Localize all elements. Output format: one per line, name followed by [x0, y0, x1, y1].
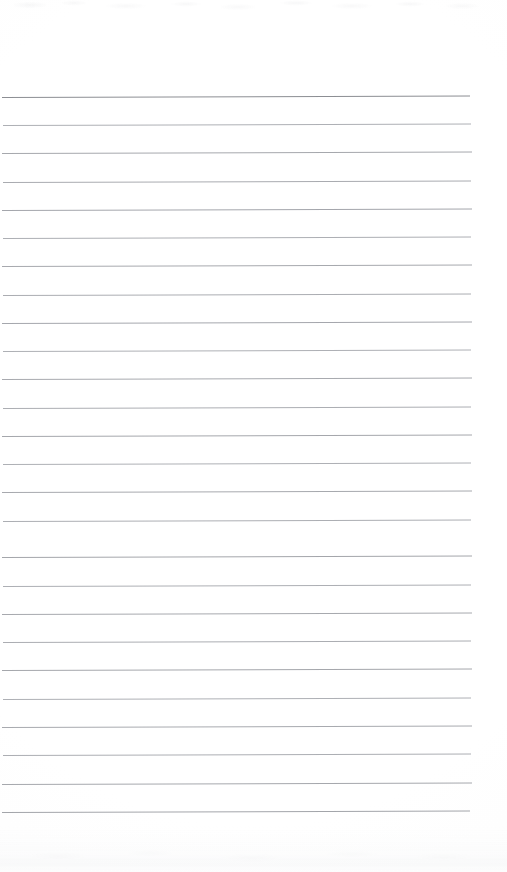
- ruling-line: [3, 520, 471, 522]
- ruling-line: [3, 754, 471, 756]
- ruling-lines-layer: [0, 0, 507, 872]
- scanned-page: [0, 0, 507, 872]
- ruling-line: [2, 613, 472, 615]
- ruling-line: [2, 726, 472, 728]
- ruling-line: [3, 698, 471, 700]
- ruling-line: [2, 209, 472, 211]
- header-rule: [2, 96, 470, 98]
- ruling-line: [2, 265, 472, 267]
- ruling-line: [2, 322, 472, 324]
- ruling-line: [3, 294, 471, 296]
- ruling-line: [2, 556, 472, 558]
- ruling-line: [2, 783, 472, 785]
- ruling-line: [3, 585, 471, 587]
- ruling-line: [2, 491, 472, 493]
- ruling-line: [3, 641, 471, 643]
- ruling-line: [3, 237, 471, 239]
- ruling-line: [3, 124, 471, 126]
- ruling-line: [2, 669, 472, 671]
- ruling-line: [2, 811, 470, 813]
- ruling-line: [3, 463, 471, 465]
- ruling-line: [3, 407, 471, 409]
- ruling-line: [3, 181, 471, 183]
- ruling-line: [2, 435, 472, 437]
- ruling-line: [2, 378, 472, 380]
- ruling-line: [3, 350, 471, 352]
- ruling-line: [2, 152, 472, 154]
